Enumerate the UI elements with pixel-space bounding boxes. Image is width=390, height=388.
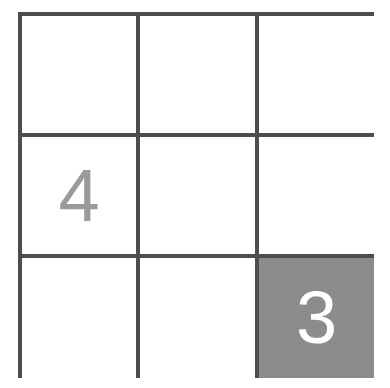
cell-r2-c2[interactable] [140,137,255,254]
cell-r2-c1[interactable]: 4 [22,137,136,254]
cell-r3-c1[interactable] [22,258,136,378]
cell-r2-c3[interactable] [259,137,374,254]
cell-r3-c2[interactable] [140,258,255,378]
puzzle-grid: 4 3 [18,12,374,378]
cell-r1-c1[interactable] [22,16,136,133]
cell-r1-c3[interactable] [259,16,374,133]
cell-r3-c3[interactable]: 3 [259,258,374,378]
cell-r1-c2[interactable] [140,16,255,133]
